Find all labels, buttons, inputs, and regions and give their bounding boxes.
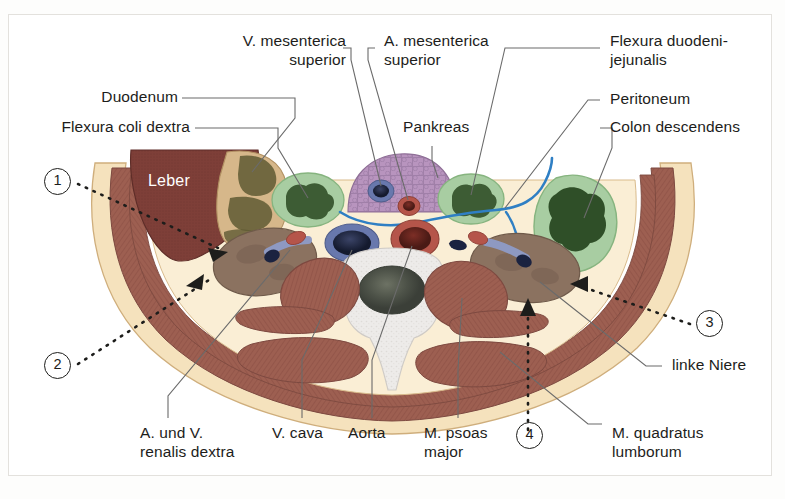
label-m-psoas-major: M. psoas major <box>424 424 520 461</box>
marker-3[interactable]: 3 <box>696 310 723 337</box>
label-flexura-duodeni-jejunalis: Flexura duodeni- jejunalis <box>610 32 780 69</box>
flexura-coli-dextra <box>272 173 344 227</box>
label-peritoneum: Peritoneum <box>610 90 760 109</box>
label-m-quadratus-lumborum: M. quadratus lumborum <box>612 424 762 461</box>
label-v-cava: V. cava <box>272 424 342 443</box>
label-aorta: Aorta <box>348 424 410 443</box>
marker-2[interactable]: 2 <box>44 352 71 379</box>
label-leber: Leber <box>148 172 190 190</box>
label-colon-descendens: Colon descendens <box>610 118 780 137</box>
label-v-mesenterica-superior: V. mesenterica superior <box>150 32 346 69</box>
label-pankreas: Pankreas <box>403 118 523 137</box>
a-mesenterica-superior <box>398 197 420 216</box>
marker-4[interactable]: 4 <box>516 422 543 449</box>
label-a-mesenterica-superior: A. mesenterica superior <box>384 32 574 69</box>
label-a-und-v-renalis-dextra: A. und V. renalis dextra <box>140 424 290 461</box>
label-linke-niere: linke Niere <box>672 356 782 375</box>
figure-page: V. mesenterica superior A. mesenterica s… <box>0 0 785 499</box>
v-mesenterica-superior <box>368 180 394 202</box>
label-duodenum: Duodenum <box>0 88 178 107</box>
marker-1[interactable]: 1 <box>44 168 71 195</box>
label-flexura-coli-dextra: Flexura coli dextra <box>0 118 190 137</box>
